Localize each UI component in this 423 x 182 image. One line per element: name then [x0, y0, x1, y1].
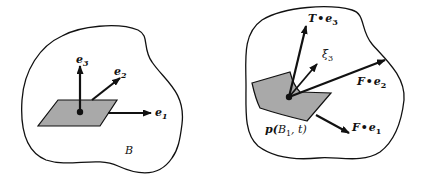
- F-e2-label: F•e2: [356, 75, 386, 90]
- e2-label: e2: [114, 65, 127, 80]
- xi3-label: ξ3: [322, 48, 333, 63]
- e3-label: e3: [76, 53, 89, 68]
- e1-label: e1: [155, 106, 168, 121]
- material-point-dot: [77, 109, 83, 115]
- T-e3-label: T•e3: [308, 12, 338, 27]
- body-label-B: B: [124, 144, 133, 157]
- body-outline-left: [22, 26, 183, 173]
- reference-body: e3 e2 e1 B: [22, 26, 183, 173]
- deformed-point-dot: [286, 94, 292, 100]
- F-e1-vector-arrow: [316, 115, 349, 133]
- region-label-p-B1-t: p(B1, t): [265, 123, 307, 138]
- continuum-deformation-diagram: e3 e2 e1 B T•e3 ξ3 F•e2 F•e1 p(B1, t): [0, 0, 423, 182]
- deformed-body: T•e3 ξ3 F•e2 F•e1 p(B1, t): [246, 7, 404, 159]
- F-e1-label: F•e1: [351, 121, 381, 136]
- e2-vector-arrow: [92, 78, 120, 100]
